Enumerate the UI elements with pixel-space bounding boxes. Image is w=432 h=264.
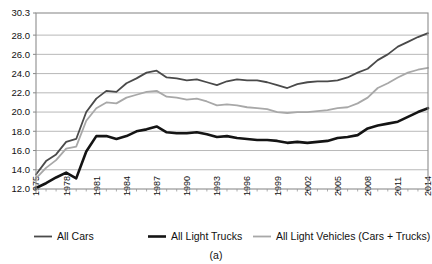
x-tick-label: 1984 [122,176,132,196]
y-tick-label: 26.0 [12,49,31,60]
x-tick-label: 1990 [182,176,192,196]
y-tick-label: 12.0 [12,183,31,194]
x-tick-label: 1978 [62,176,72,196]
legend-label: All Cars [57,230,94,242]
gridlines-group [33,13,428,189]
legend-label: All Light Trucks [171,230,242,242]
y-axis-tick-labels: 30.328.026.024.022.020.018.016.014.012.0 [12,7,31,194]
x-tick-label: 2008 [363,176,373,196]
series-line [36,68,428,179]
x-tick-label: 2005 [333,176,343,196]
chart-figure: 30.328.026.024.022.020.018.016.014.012.0… [0,0,432,264]
fuel-economy-line-chart: 30.328.026.024.022.020.018.016.014.012.0… [0,0,432,264]
x-tick-label: 1993 [212,176,222,196]
x-tick-label: 1996 [242,176,252,196]
chart-legend: All CarsAll Light TrucksAll Light Vehicl… [34,230,430,242]
y-tick-label: 18.0 [12,126,31,137]
x-tick-label: 1999 [273,176,283,196]
y-tick-label: 14.0 [12,164,31,175]
x-tick-label: 2011 [393,177,403,196]
y-tick-label: 16.0 [12,145,31,156]
y-tick-label: 22.0 [12,87,31,98]
x-tick-label: 2002 [303,176,313,196]
x-tick-label: 1987 [152,176,162,196]
legend-label: All Light Vehicles (Cars + Trucks) [276,230,430,242]
y-tick-label: 28.0 [12,30,31,41]
y-tick-label: 20.0 [12,106,31,117]
x-tick-label: 1981 [92,176,102,196]
y-tick-label: 24.0 [12,68,31,79]
figure-caption: (a) [210,249,223,261]
x-axis-tick-labels: 1975197819811984198719901993199619992002… [31,176,432,196]
y-tick-label: 30.3 [12,7,31,18]
data-series-group [36,33,428,188]
